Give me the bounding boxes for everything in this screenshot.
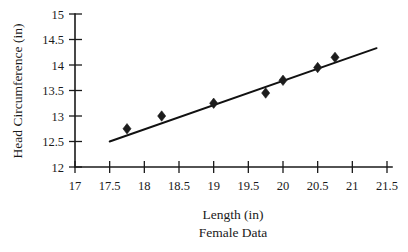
y-axis-title: Head Circumference (in) [10, 24, 25, 159]
y-tick-label: 13.5 [42, 84, 64, 98]
x-tick-label: 20 [277, 179, 290, 193]
scatter-plot: 1212.51313.51414.515 1717.51818.51919.52… [0, 0, 408, 252]
x-tick-label: 17.5 [99, 179, 121, 193]
x-tick-label: 19 [207, 179, 220, 193]
x-tick-label: 19.5 [237, 179, 259, 193]
y-axis-tick-labels: 1212.51313.51414.515 [42, 8, 65, 175]
x-tick-label: 20.5 [307, 179, 329, 193]
data-point-marker [279, 75, 287, 85]
figure-container: 1212.51313.51414.515 1717.51818.51919.52… [0, 0, 408, 252]
y-tick-label: 15 [52, 8, 65, 22]
y-tick-label: 12 [52, 161, 65, 175]
x-tick-label: 21.5 [376, 179, 398, 193]
y-tick-label: 12.5 [42, 135, 64, 149]
y-tick-label: 14.5 [42, 33, 64, 47]
data-point-marker [158, 111, 166, 121]
x-tick-label: 21 [346, 179, 359, 193]
data-point-group [123, 52, 339, 134]
x-tick-label: 18 [138, 179, 151, 193]
x-tick-label: 18.5 [168, 179, 190, 193]
y-tick-label: 13 [52, 110, 65, 124]
regression-trend-line [110, 48, 377, 141]
x-axis-tick-labels: 1717.51818.51919.52020.52121.5 [69, 179, 398, 193]
figure-caption: Female Data [199, 225, 268, 240]
x-axis-title: Length (in) [202, 207, 263, 222]
data-point-marker [314, 62, 322, 72]
data-point-marker [262, 88, 270, 98]
x-tick-label: 17 [69, 179, 82, 193]
y-tick-label: 14 [52, 59, 65, 73]
data-point-marker [123, 124, 131, 134]
